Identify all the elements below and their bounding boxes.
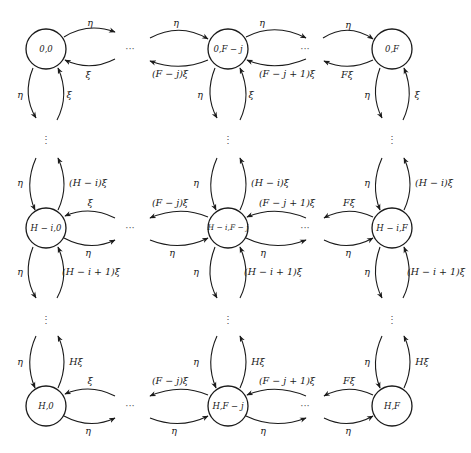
ellipsis-v: ⋮ (41, 134, 51, 145)
node-label: H,0 (37, 401, 54, 411)
ellipsis-v: ⋮ (223, 314, 233, 325)
node-label: 0,0 (39, 44, 53, 54)
ellipsis-h: ··· (125, 222, 135, 233)
label-F-minus-j-xi: (F − j)ξ (152, 197, 189, 208)
label-H-xi: Hξ (414, 356, 429, 367)
label-eta: η (197, 89, 203, 100)
edge-00-right-eta (64, 28, 115, 37)
label-eta: η (364, 266, 370, 277)
label-eta: η (17, 177, 23, 188)
edge-iF-in-top-eta (375, 158, 382, 210)
ellipsis-v: ⋮ (387, 134, 397, 145)
label-H-xi: Hξ (68, 356, 83, 367)
edge-0F-down-eta (375, 68, 382, 118)
edge-iF-out-bottom-eta (375, 247, 382, 298)
edge-0F-up-xi (403, 68, 409, 120)
label-xi: ξ (248, 89, 254, 100)
label-eta: η (260, 247, 266, 258)
edge-0j-in-right (247, 59, 306, 66)
label-eta: η (17, 89, 23, 100)
label-eta: η (173, 17, 179, 28)
edge-0j-in-eta (150, 30, 208, 39)
node-0-0: 0,0 (26, 29, 66, 69)
edge-ij-out-left (150, 211, 208, 218)
label-F-minus-j-xi: (F − j)ξ (152, 68, 189, 79)
edge-H0-out-top (58, 336, 64, 388)
edge-Hj-out-right-eta (246, 416, 306, 424)
edge-HF-out-left (324, 389, 373, 396)
edge-Hj-in-left-eta (150, 416, 208, 424)
label-F-xi: Fξ (340, 69, 354, 80)
label-xi: ξ (414, 89, 420, 100)
node-label: 0,F (385, 44, 400, 54)
label-eta: η (193, 177, 199, 188)
edge-i0-out-bottom-eta (28, 247, 36, 298)
node-label: H − i,F (375, 223, 408, 233)
edge-0j-out-left (150, 60, 208, 66)
node-0-F-minus-j: 0,F − j (208, 29, 248, 69)
label-F-minus-j-plus-1-xi: (F − j + 1)ξ (259, 68, 316, 79)
ellipsis-v: ⋮ (387, 314, 397, 325)
edge-i0-out-top (58, 158, 64, 210)
label-H-xi: Hξ (250, 356, 265, 367)
ellipsis-v: ⋮ (223, 134, 233, 145)
edge-iF-out-top (404, 158, 410, 210)
edge-ij-in-right (247, 211, 306, 218)
label-eta: η (169, 247, 175, 258)
node-label: 0,F − j (213, 44, 243, 54)
label-H-minus-i-xi: (H − i)ξ (69, 177, 108, 188)
node-H-minus-i-F-minus-j: H − i,F − j (207, 208, 250, 248)
node-H-F-minus-j: H,F − j (208, 386, 248, 426)
edge-H0-in-right-xi (65, 389, 115, 396)
label-F-xi: Fξ (342, 197, 356, 208)
label-eta: η (85, 247, 91, 258)
edge-0F-in-eta (323, 30, 373, 39)
edge-00-up-xi (57, 68, 64, 120)
edge-ij-out-bottom-eta (210, 247, 217, 298)
edge-HF-out-top (404, 336, 410, 388)
label-F-minus-j-xi: (F − j)ξ (152, 375, 189, 386)
ellipsis-h: ··· (125, 43, 135, 54)
ellipsis-v: ⋮ (41, 314, 51, 325)
label-eta: η (259, 17, 265, 28)
label-eta: η (345, 19, 351, 30)
edge-0j-down-eta (210, 68, 217, 118)
edge-iF-out-left (324, 211, 373, 218)
label-H-minus-i-xi: (H − i)ξ (251, 177, 290, 188)
edge-ij-in-left-eta (150, 238, 208, 246)
edge-i0-out-right-eta (64, 238, 115, 246)
label-H-minus-i-plus-1-xi: (H − i + 1)ξ (407, 266, 466, 277)
edge-0F-out-left (324, 60, 373, 66)
label-xi: ξ (87, 375, 93, 386)
label-eta: η (364, 356, 370, 367)
edge-ij-in-top-eta (211, 158, 217, 210)
label-H-minus-i-xi: (H − i)ξ (415, 177, 454, 188)
edge-H0-out-right-eta (64, 416, 115, 424)
node-label: H − i,F − j (207, 223, 250, 232)
label-H-minus-i-plus-1-xi: (H − i + 1)ξ (244, 266, 303, 277)
node-H-minus-i-F: H − i,F (372, 208, 412, 248)
label-eta: η (17, 266, 23, 277)
edge-HF-in-top-eta (375, 336, 382, 388)
ellipsis-h: ··· (300, 400, 310, 411)
node-label: H,F (383, 401, 401, 411)
label-eta: η (193, 266, 199, 277)
edge-Hj-in-top-eta (211, 336, 217, 388)
node-H-minus-i-0: H − i,0 (26, 208, 66, 248)
label-F-xi: Fξ (342, 375, 356, 386)
ellipsis-h: ··· (125, 400, 135, 411)
edge-0j-out-right-eta (246, 30, 306, 38)
label-eta: η (87, 17, 93, 28)
edge-i0-in-top-eta (30, 158, 36, 210)
label-F-minus-j-plus-1-xi: (F − j + 1)ξ (259, 197, 316, 208)
edge-0j-up-xi (240, 68, 246, 120)
label-xi: ξ (87, 197, 93, 208)
node-H-0: H,0 (26, 386, 66, 426)
edge-Hj-out-top (240, 336, 246, 388)
edge-Hj-out-left (150, 389, 208, 396)
label-eta: η (364, 89, 370, 100)
label-xi: ξ (85, 69, 91, 80)
node-label: H − i,0 (30, 223, 62, 233)
node-H-F: H,F (372, 386, 412, 426)
edge-ij-out-right-eta (246, 238, 306, 246)
